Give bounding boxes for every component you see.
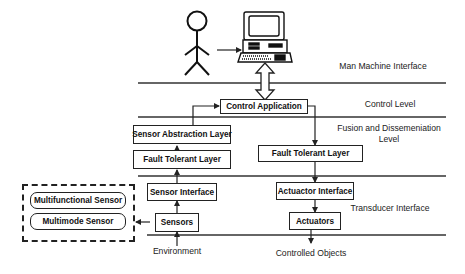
multifunctional-sensor-box: Multifunctional Sensor [30,192,126,209]
control-application-box: Control Application [220,99,308,114]
control-level-label: Control Level [345,99,435,110]
sensor-interface-label: Sensor Interface [150,188,214,197]
control-to-fault-tolerant-arrow [308,106,315,145]
sensors-box: Sensors [155,213,199,232]
environment-label: Environment [140,246,214,257]
fusion-level-label-line2: Level [330,134,448,145]
stick-figure-icon [185,12,209,76]
computer-terminal-icon [238,12,292,62]
fault-tolerant-layer-right-label: Fault Tolerant Layer [272,149,350,158]
fault-tolerant-layer-left-label: Fault Tolerant Layer [143,155,221,164]
control-application-label: Control Application [226,102,302,111]
actuator-interface-label: Actuactor Interface [278,187,353,196]
sensors-label: Sensors [161,218,193,227]
multimode-sensor-label: Multimode Sensor [43,217,114,226]
actuators-box: Actuators [289,212,341,230]
multifunctional-sensor-label: Multifunctional Sensor [34,196,122,205]
architecture-diagram: Control Application Sensor Abstraction L… [0,0,465,274]
bidirectional-arrow [256,63,274,100]
sensor-interface-box: Sensor Interface [147,183,217,201]
sensor-abstraction-layer-box: Sensor Abstraction Layer [133,125,231,144]
actuators-label: Actuators [296,217,334,226]
sensor-abstraction-layer-label: Sensor Abstraction Layer [132,130,231,139]
fault-tolerant-layer-right-box: Fault Tolerant Layer [258,145,363,162]
actuator-interface-box: Actuactor Interface [276,182,354,200]
controlled-objects-label: Controlled Objects [266,248,356,259]
abstraction-to-control-arrow [193,106,219,125]
multimode-sensor-box: Multimode Sensor [30,213,126,230]
fusion-level-label-line1: Fusion and Dissemeniation [330,123,448,134]
man-machine-interface-label: Man Machine Interface [338,61,428,72]
fault-tolerant-layer-left-box: Fault Tolerant Layer [133,150,231,169]
transducer-interface-label: Transducer Interface [340,203,440,214]
